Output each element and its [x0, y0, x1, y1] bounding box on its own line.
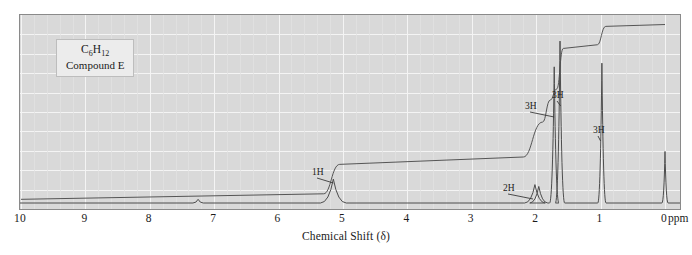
leader-line	[530, 112, 554, 117]
x-axis-tick-3: 3	[468, 212, 474, 224]
x-axis-tick-8: 8	[146, 212, 152, 224]
formula-sub-12: 12	[101, 49, 109, 58]
x-axis-tick-7: 7	[210, 212, 216, 224]
integration-label-1h: 1H	[312, 167, 324, 177]
integration-label-3h-b: 3H	[552, 90, 564, 100]
x-axis-tick-2: 2	[532, 212, 538, 224]
x-axis: 109876543210 ppm Chemical Shift (δ)	[0, 210, 692, 255]
x-axis-tick-0: 0	[661, 212, 667, 224]
sample-label-box: C6H12 Compound E	[56, 39, 134, 77]
spectrum-plot-area: C6H12 Compound E 1H 2H 3H 3H 3H	[19, 14, 681, 210]
integration-label-3h-c: 3H	[593, 125, 605, 135]
nmr-spectrum-figure: C6H12 Compound E 1H 2H 3H 3H 3H 10987654…	[0, 0, 692, 255]
x-axis-tick-10: 10	[14, 212, 26, 224]
integration-label-2h: 2H	[503, 183, 515, 193]
formula-element-h: H	[93, 43, 101, 55]
leader-line	[508, 194, 533, 199]
formula-element-c: C	[81, 43, 89, 55]
integration-label-3h-a: 3H	[525, 101, 537, 111]
x-axis-tick-5: 5	[339, 212, 345, 224]
x-axis-title: Chemical Shift (δ)	[0, 230, 692, 242]
compound-name: Compound E	[66, 59, 124, 72]
x-axis-tick-6: 6	[275, 212, 281, 224]
x-axis-unit-label: ppm	[668, 212, 688, 224]
x-axis-tick-9: 9	[81, 212, 87, 224]
molecular-formula: C6H12	[66, 43, 124, 59]
x-axis-tick-1: 1	[597, 212, 603, 224]
leader-line	[598, 136, 601, 141]
x-axis-tick-4: 4	[403, 212, 409, 224]
